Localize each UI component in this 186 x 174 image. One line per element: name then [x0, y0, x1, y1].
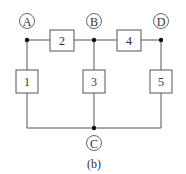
element-5: 5 [150, 70, 172, 93]
figure-caption: (b) [87, 157, 101, 171]
node-label: A [23, 15, 32, 29]
node-b: B [87, 14, 102, 29]
junction-dot-d [159, 38, 163, 42]
node-label: D [157, 15, 166, 29]
circuit-diagram: 2 4 1 3 5 A B D C (b) [0, 0, 186, 174]
junction-dot-c [92, 126, 96, 130]
element-4: 4 [117, 30, 141, 51]
element-label: 2 [59, 34, 65, 48]
element-label: 1 [24, 75, 30, 89]
element-label: 3 [91, 75, 97, 89]
node-a: A [20, 14, 35, 29]
element-1: 1 [16, 70, 38, 93]
node-c: C [87, 136, 102, 151]
junction-dot-b [92, 38, 96, 42]
node-d: D [154, 14, 169, 29]
element-label: 5 [158, 75, 164, 89]
junction-dot-a [25, 38, 29, 42]
element-2: 2 [50, 30, 74, 51]
element-3: 3 [83, 70, 105, 93]
node-label: B [90, 15, 98, 29]
node-label: C [90, 137, 98, 151]
element-label: 4 [126, 34, 132, 48]
